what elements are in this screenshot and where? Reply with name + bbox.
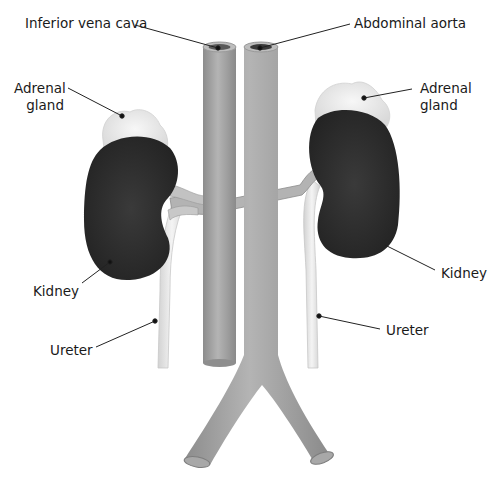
label-kidney-left: Kidney bbox=[33, 283, 79, 299]
inferior-vena-cava bbox=[203, 42, 236, 367]
kidney-left bbox=[84, 136, 178, 280]
kidney-diagram bbox=[0, 0, 497, 483]
ureter-left bbox=[158, 195, 186, 368]
label-adrenal-gland-left-line1: Adrenal bbox=[14, 80, 64, 96]
label-adrenal-gland-left-line2: gland bbox=[14, 97, 64, 113]
label-ureter-left: Ureter bbox=[50, 342, 93, 358]
label-adrenal-gland-right-line2: gland bbox=[420, 97, 458, 113]
label-ureter-right: Ureter bbox=[386, 322, 429, 338]
label-kidney-right: Kidney bbox=[441, 265, 487, 281]
ureter-right bbox=[304, 180, 320, 368]
label-abdominal-aorta: Abdominal aorta bbox=[354, 15, 466, 31]
renal-vessels bbox=[168, 168, 318, 220]
label-adrenal-gland-right-line1: Adrenal bbox=[420, 80, 472, 96]
label-inferior-vena-cava: Inferior vena cava bbox=[25, 15, 147, 31]
kidney-right bbox=[309, 110, 400, 258]
